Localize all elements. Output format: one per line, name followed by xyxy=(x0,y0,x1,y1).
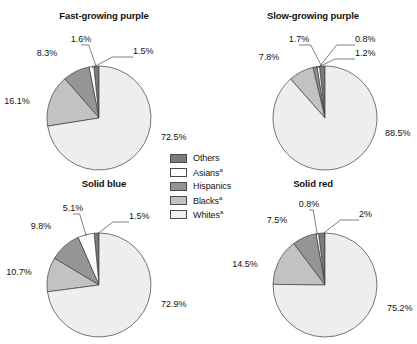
pie-title-slow-growing-purple: Slow-growing purple xyxy=(209,10,417,21)
pie-value-label-others: 1.5% xyxy=(129,211,150,221)
pie-value-label-asians: 0.8% xyxy=(299,199,320,209)
pie-value-label-hispanics: 7.5% xyxy=(267,215,288,225)
leader-line xyxy=(73,214,86,236)
pie-chart-figure: Fast-growing purple1.6%1.5%8.3%16.1%72.5… xyxy=(0,0,417,344)
legend-item-whites[interactable]: Whitesa xyxy=(170,208,250,222)
pie-value-label-hispanics: 1.2% xyxy=(355,48,376,58)
legend-item-asians[interactable]: Asiansa xyxy=(170,165,250,179)
legend-label-blacks: Blacksa xyxy=(193,195,222,206)
pie-value-label-hispanics: 8.3% xyxy=(37,48,58,58)
leader-line xyxy=(299,45,322,68)
legend-item-others[interactable]: Others xyxy=(170,151,250,165)
legend-swatch-hispanics xyxy=(170,182,187,191)
leader-line xyxy=(309,210,317,235)
pie-value-label-whites: 88.5% xyxy=(385,128,411,138)
legend-swatch-whites xyxy=(170,210,187,219)
pie-value-label-whites: 72.9% xyxy=(161,299,187,309)
pie-value-label-blacks: 14.5% xyxy=(232,259,258,269)
legend-label-others: Others xyxy=(193,153,219,163)
pie-value-label-whites: 75.2% xyxy=(387,303,413,313)
pie-value-label-blacks: 7.8% xyxy=(259,52,280,62)
pie-value-label-others: 1.6% xyxy=(71,34,92,44)
pie-value-label-others: 1.7% xyxy=(289,34,310,44)
pie-value-label-blacks: 10.7% xyxy=(6,267,32,277)
legend-swatch-blacks xyxy=(170,196,187,205)
leader-line xyxy=(81,45,97,68)
legend-item-blacks[interactable]: Blacksa xyxy=(170,194,250,208)
pie-title-fast-growing-purple: Fast-growing purple xyxy=(0,10,208,21)
legend-label-whites: Whitesa xyxy=(193,209,223,220)
pie-value-label-whites: 72.5% xyxy=(161,132,187,142)
legend-footnote-marker: a xyxy=(220,209,223,215)
pie-value-label-asians: 5.1% xyxy=(63,203,84,213)
legend-swatch-asians xyxy=(170,168,187,177)
legend-item-hispanics[interactable]: Hispanics xyxy=(170,179,250,193)
pie-value-label-blacks: 16.1% xyxy=(4,96,30,106)
legend-swatch-others xyxy=(170,154,187,163)
legend-footnote-marker: a xyxy=(219,167,222,173)
chart-legend: OthersAsiansaHispanicsBlacksaWhitesa xyxy=(170,151,250,222)
pie-value-label-others: 2% xyxy=(359,209,372,219)
leader-line xyxy=(322,220,359,235)
pie-value-label-asians: 1.5% xyxy=(133,46,154,56)
pie-slice-whites xyxy=(273,66,377,170)
pie-value-label-asians: 0.8% xyxy=(355,34,376,44)
legend-footnote-marker: a xyxy=(219,195,222,201)
legend-label-asians: Asiansa xyxy=(193,167,223,178)
pie-value-label-hispanics: 9.8% xyxy=(31,221,52,231)
legend-label-hispanics: Hispanics xyxy=(193,181,231,191)
